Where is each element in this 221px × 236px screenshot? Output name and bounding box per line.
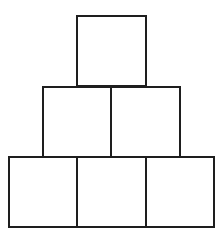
- box-row3-2: [76, 156, 147, 228]
- box-row3-3: [145, 156, 215, 228]
- box-row1-1: [76, 15, 147, 87]
- box-row3-1: [8, 156, 78, 228]
- box-row2-1: [42, 86, 112, 158]
- box-row2-2: [110, 86, 181, 158]
